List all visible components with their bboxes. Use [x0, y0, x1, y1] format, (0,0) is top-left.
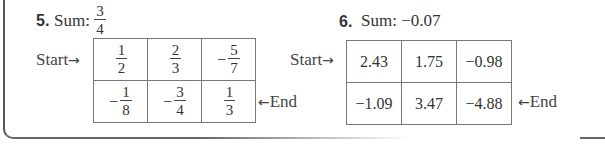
right-arrow-icon: → — [322, 52, 334, 68]
numerator: 3 — [94, 4, 106, 20]
left-arrow-icon: ← — [518, 94, 530, 110]
problem-5-end-label: ←End — [258, 92, 297, 112]
grid-cell: −1.09 — [347, 83, 402, 125]
problem-5-start-label: Start→ — [36, 50, 80, 70]
problem-6-number: 6. — [339, 13, 352, 31]
problem-6-grid: 2.43 1.75 −0.98 −1.09 3.47 −4.88 — [346, 40, 512, 125]
grid-row: −18 −34 13 — [94, 81, 256, 123]
start-text: Start — [290, 50, 322, 69]
sum-label: Sum: — [361, 11, 397, 30]
problem-6-start-label: Start→ — [290, 50, 334, 70]
right-arrow-icon: → — [68, 52, 80, 68]
problem-6-sum: Sum: −0.07 — [361, 11, 441, 31]
grid-cell: −0.98 — [457, 41, 512, 83]
grid-cell: −34 — [148, 81, 202, 123]
grid-cell: 23 — [148, 39, 202, 81]
grid-cell: 2.43 — [347, 41, 402, 83]
grid-row: 12 23 −57 — [94, 39, 256, 81]
sum-value: −0.07 — [401, 11, 440, 30]
left-arrow-icon: ← — [258, 94, 270, 110]
sum-fraction: 3 4 — [94, 4, 106, 37]
problem-5-sum: Sum: 3 4 — [54, 4, 106, 37]
end-text: End — [530, 92, 557, 111]
end-text: End — [270, 92, 297, 111]
grid-cell: 3.47 — [402, 83, 457, 125]
problem-6-end-label: ←End — [518, 92, 557, 112]
problem-5-number: 5. — [36, 12, 49, 30]
grid-cell: −4.88 — [457, 83, 512, 125]
grid-cell: −57 — [202, 39, 256, 81]
frame-fade — [200, 134, 580, 140]
problem-5-grid: 12 23 −57 −18 −34 13 — [93, 38, 256, 123]
grid-cell: 12 — [94, 39, 148, 81]
grid-cell: 1.75 — [402, 41, 457, 83]
start-text: Start — [36, 50, 68, 69]
denominator: 4 — [96, 20, 104, 37]
grid-cell: 13 — [202, 81, 256, 123]
grid-row: 2.43 1.75 −0.98 — [347, 41, 512, 83]
grid-row: −1.09 3.47 −4.88 — [347, 83, 512, 125]
grid-cell: −18 — [94, 81, 148, 123]
sum-label: Sum: — [54, 11, 90, 30]
